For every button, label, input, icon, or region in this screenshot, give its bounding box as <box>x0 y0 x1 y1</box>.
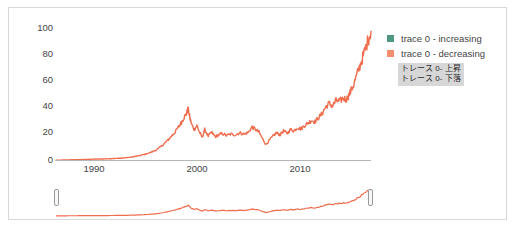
rangeslider[interactable] <box>56 186 371 218</box>
y-tick-20: 20 <box>9 127 53 137</box>
rangeslider-preview-chart <box>56 186 371 218</box>
x-tick-2000: 2000 <box>186 164 207 174</box>
translation-overlay: トレース 0- 上昇 トレース 0- 下落 <box>398 63 464 86</box>
legend[interactable]: trace 0 - increasing trace 0 - decreasin… <box>386 32 504 62</box>
y-axis-ticks: 100 80 60 40 20 0 <box>9 22 53 167</box>
legend-label-decreasing: trace 0 - decreasing <box>401 49 485 59</box>
x-tick-1990: 1990 <box>83 164 104 174</box>
rangeslider-end-handle[interactable] <box>368 189 373 206</box>
plotly-figure: 100 80 60 40 20 0 1990 2000 2010 trace 0… <box>8 7 507 220</box>
rangeslider-start-handle[interactable] <box>54 189 59 206</box>
legend-item-increasing[interactable]: trace 0 - increasing <box>386 32 504 45</box>
price-line-chart <box>56 28 371 161</box>
x-tick-2010: 2010 <box>289 164 310 174</box>
rangeslider-trace-line <box>56 189 371 216</box>
legend-swatch-increasing[interactable] <box>386 34 395 43</box>
y-tick-80: 80 <box>9 49 53 59</box>
translation-line-increasing: トレース 0- 上昇 <box>401 64 461 74</box>
x-axis-ticks: 1990 2000 2010 <box>9 164 409 180</box>
trace-0-line <box>56 31 371 160</box>
x-axis-line <box>56 160 371 161</box>
plot-area <box>56 28 371 161</box>
translation-line-decreasing: トレース 0- 下落 <box>401 74 461 84</box>
legend-item-decreasing[interactable]: trace 0 - decreasing <box>386 47 504 60</box>
legend-swatch-decreasing[interactable] <box>386 49 395 58</box>
legend-label-increasing: trace 0 - increasing <box>401 34 482 44</box>
y-tick-60: 60 <box>9 75 53 85</box>
y-tick-100: 100 <box>9 23 53 33</box>
y-tick-40: 40 <box>9 101 53 111</box>
